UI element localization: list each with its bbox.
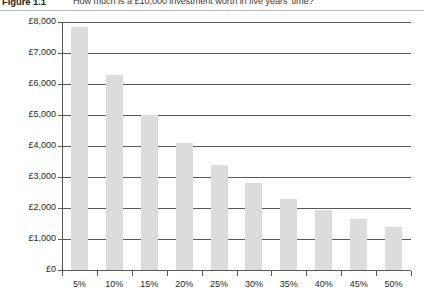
gridline xyxy=(62,22,411,23)
y-axis-labels: £8,000£7,000£6,000£5,000£4,000£3,000£2,0… xyxy=(0,0,56,303)
bar xyxy=(141,115,158,270)
x-axis-tick-label: 15% xyxy=(132,279,167,289)
y-axis-tick-label: £4,000 xyxy=(28,141,56,150)
x-tick-mark xyxy=(306,271,307,276)
x-tick-mark xyxy=(237,271,238,276)
y-axis-tick-label: £2,000 xyxy=(28,203,56,212)
plot-area: 5%10%15%20%25%30%35%40%45%50% xyxy=(62,22,411,270)
y-tick-mark xyxy=(58,22,62,23)
x-tick-mark xyxy=(271,271,272,276)
gridline xyxy=(62,53,411,54)
y-tick-mark xyxy=(58,239,62,240)
bar xyxy=(211,165,228,270)
x-axis-tick-label: 10% xyxy=(97,279,132,289)
x-tick-mark xyxy=(97,271,98,276)
x-axis-tick-label: 20% xyxy=(167,279,202,289)
y-axis-tick-label: £7,000 xyxy=(28,48,56,57)
bar xyxy=(106,75,123,270)
bar xyxy=(280,199,297,270)
y-tick-mark xyxy=(58,53,62,54)
y-axis-tick-label: £1,000 xyxy=(28,234,56,243)
x-tick-mark xyxy=(411,271,412,276)
x-tick-mark xyxy=(132,271,133,276)
bar xyxy=(385,227,402,270)
x-tick-mark xyxy=(167,271,168,276)
x-axis-tick-label: 45% xyxy=(341,279,376,289)
x-axis-tick-label: 35% xyxy=(271,279,306,289)
x-tick-mark xyxy=(202,271,203,276)
y-tick-mark xyxy=(58,115,62,116)
y-axis-tick-label: £5,000 xyxy=(28,110,56,119)
bar xyxy=(71,27,88,270)
x-axis-tick-label: 30% xyxy=(237,279,272,289)
y-tick-mark xyxy=(58,177,62,178)
x-tick-mark xyxy=(376,271,377,276)
y-tick-mark xyxy=(58,146,62,147)
x-axis-tick-label: 40% xyxy=(306,279,341,289)
bar xyxy=(350,219,367,270)
bar-chart: £8,000£7,000£6,000£5,000£4,000£3,000£2,0… xyxy=(0,0,426,303)
x-tick-mark xyxy=(62,271,63,276)
y-axis-tick-label: £0 xyxy=(46,265,56,274)
bar xyxy=(176,143,193,270)
bar xyxy=(245,183,262,270)
y-axis-tick-label: £8,000 xyxy=(28,17,56,26)
x-axis-tick-label: 5% xyxy=(62,279,97,289)
x-axis-tick-label: 25% xyxy=(202,279,237,289)
y-tick-mark xyxy=(58,208,62,209)
x-axis-tick-label: 50% xyxy=(376,279,411,289)
bar xyxy=(315,210,332,270)
x-tick-mark xyxy=(341,271,342,276)
y-axis-tick-label: £3,000 xyxy=(28,172,56,181)
y-axis-tick-label: £6,000 xyxy=(28,79,56,88)
y-tick-mark xyxy=(58,84,62,85)
